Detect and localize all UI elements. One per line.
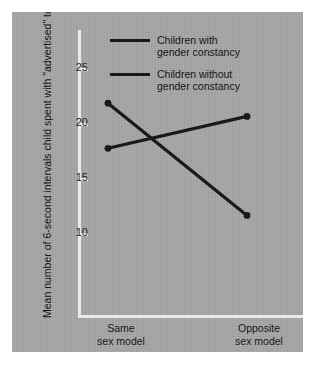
chart-panel: 25 20 15 10 Mean number of 6-second inte… — [12, 12, 303, 352]
x-tick-label-opposite-line2: sex model — [204, 335, 303, 348]
x-tick-label-same-line1: Same — [66, 322, 176, 335]
series-with-gender-constancy — [105, 100, 251, 219]
plot-area — [12, 12, 303, 352]
x-tick-label-same-line2: sex model — [66, 335, 176, 348]
x-tick-label-same-sex-model: Same sex model — [66, 322, 176, 348]
data-point-without-same — [105, 145, 112, 152]
figure-container: 25 20 15 10 Mean number of 6-second inte… — [0, 0, 318, 370]
data-point-without-opposite — [244, 113, 251, 120]
x-tick-label-opposite-line1: Opposite — [204, 322, 303, 335]
data-point-with-opposite — [244, 212, 251, 219]
data-point-with-same — [105, 100, 112, 107]
x-tick-label-opposite-sex-model: Opposite sex model — [204, 322, 303, 348]
